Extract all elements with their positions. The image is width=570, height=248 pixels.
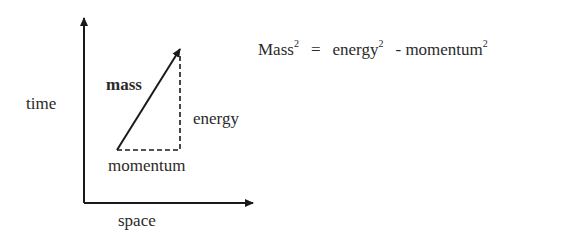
equation-energy-exponent: 2	[378, 38, 383, 49]
momentum-label: momentum	[108, 157, 185, 174]
space-axis-label: space	[118, 212, 156, 229]
equation-lhs: Mass	[258, 40, 294, 59]
energy-label: energy	[193, 110, 239, 127]
equation-term-energy: energy	[333, 40, 379, 59]
equation-minus: -	[395, 40, 401, 59]
equation-term-momentum: momentum	[405, 40, 482, 59]
mass-energy-equation: Mass2=energy2- momentum2	[258, 40, 488, 60]
equation-lhs-exponent: 2	[294, 38, 299, 49]
mass-vector	[117, 49, 180, 150]
mass-label: mass	[106, 76, 142, 93]
equation-equals: =	[311, 40, 321, 59]
equation-momentum-exponent: 2	[483, 38, 488, 49]
time-axis-label: time	[26, 95, 56, 112]
